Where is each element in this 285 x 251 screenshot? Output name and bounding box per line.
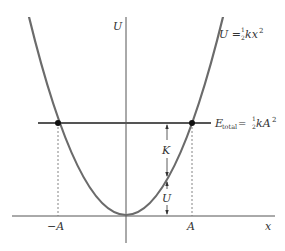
- total-energy-label: E total = 1 2 kA 2: [214, 115, 276, 131]
- potential-energy-diagram: K U U x −A A U = 1 2 kx 2 E total = 1 2 …: [0, 0, 285, 251]
- svg-text:U =: U =: [219, 28, 241, 41]
- svg-text:2: 2: [272, 116, 276, 124]
- svg-text:kx: kx: [245, 28, 259, 41]
- turning-point-pos-A: [189, 120, 195, 126]
- svg-text:2: 2: [259, 27, 263, 35]
- svg-text:total: total: [222, 123, 237, 131]
- kinetic-label: K: [161, 144, 171, 157]
- tick-label-neg-A: −A: [47, 220, 64, 233]
- potential-label: U: [162, 192, 172, 205]
- x-axis-label: x: [265, 220, 272, 233]
- turning-point-neg-A: [55, 120, 61, 126]
- curve-equation-label: U = 1 2 kx 2: [219, 26, 263, 41]
- svg-text:=: =: [238, 118, 246, 129]
- tick-label-pos-A: A: [186, 220, 195, 233]
- y-axis-label: U: [113, 20, 123, 33]
- svg-text:kA: kA: [256, 117, 271, 130]
